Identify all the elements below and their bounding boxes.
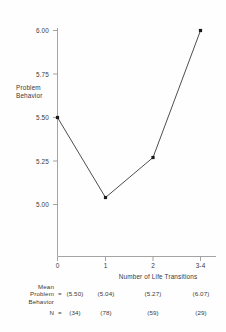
data-point-3	[199, 29, 202, 32]
footnote-mean-label-line2: Problem	[14, 290, 54, 297]
footnote-mean-label-line1: Mean	[14, 283, 54, 290]
y-axis-title-line2: Behavior	[16, 92, 42, 100]
y-tick-label-6.00: 6.00	[23, 27, 49, 35]
x-tick-label-0: 0	[46, 262, 70, 270]
y-tick-label-5.50: 5.50	[23, 114, 49, 122]
data-point-0	[56, 116, 59, 119]
x-axis-ticks	[58, 257, 201, 262]
x-axis-title: Number of Life Transitions	[93, 273, 223, 281]
footnote-n-value-1: (78)	[93, 309, 119, 317]
y-tick-label-5.25: 5.25	[23, 158, 49, 166]
data-point-2	[151, 156, 154, 159]
footnote-n-value-2: (59)	[140, 309, 166, 317]
footnote-mean-value-1: (5.04)	[93, 290, 119, 298]
x-tick-label-2: 2	[141, 262, 165, 270]
data-series-line	[58, 31, 201, 198]
footnote-mean-value-0: (5.50)	[62, 290, 88, 298]
footnote-mean-label-line3: Behavior	[14, 298, 54, 305]
footnote-mean-value-2: (5.27)	[140, 290, 166, 298]
footnote-mean-value-3: (6.07)	[188, 290, 214, 298]
x-tick-label-3-4: 3-4	[189, 262, 213, 270]
footnote-n-value-0: (34)	[62, 309, 88, 317]
y-tick-label-5.00: 5.00	[23, 201, 49, 209]
data-point-markers	[56, 29, 202, 199]
footnote-n-label: N	[14, 309, 54, 317]
x-tick-label-1: 1	[94, 262, 118, 270]
footnote-n-value-3: (29)	[188, 309, 214, 317]
data-point-1	[104, 196, 107, 199]
y-tick-label-5.75: 5.75	[23, 71, 49, 79]
figure-container: 6.00 5.75 5.50 5.25 5.00 Problem Behavio…	[0, 0, 226, 332]
